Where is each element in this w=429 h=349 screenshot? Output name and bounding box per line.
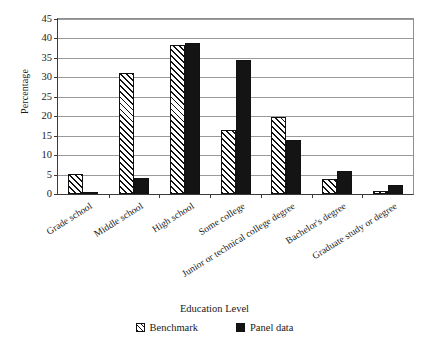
x-axis-category-label: Grade school [45,200,94,237]
x-axis-tick-mark [210,194,211,198]
y-axis-tick-mark [54,175,58,176]
x-axis-category-label: Middle school [92,200,145,239]
bar-panel-data [236,60,251,194]
y-axis-tick-label: 35 [42,53,53,64]
plot-area: 051015202530354045 [57,18,414,195]
bar-panel-data [83,192,98,194]
y-axis-tick-label: 30 [42,72,53,83]
x-axis-tick-mark [261,194,262,198]
y-axis-tick-mark [54,97,58,98]
bar-benchmark [271,117,286,194]
legend-swatch-panel-data-icon [236,323,245,332]
bar-benchmark [221,130,236,194]
x-axis-title: Education Level [0,303,429,314]
y-axis-tick-label: 0 [47,189,52,200]
y-axis-tick-mark [54,136,58,137]
y-axis-tick-mark [54,19,58,20]
y-axis-tick-label: 5 [47,169,52,180]
y-axis-tick-mark [54,155,58,156]
bar-benchmark [68,174,83,194]
legend-label-benchmark: Benchmark [150,322,198,333]
x-axis-category-label: Graduate study or degree [310,200,399,261]
y-axis-tick-mark [54,77,58,78]
y-axis-tick-label: 40 [42,33,53,44]
y-axis-tick-mark [54,58,58,59]
x-axis-category-label: Some college [196,200,246,237]
x-axis-tick-mark [159,194,160,198]
y-axis-tick-label: 15 [42,130,53,141]
y-axis-tick-label: 45 [42,14,53,25]
bar-panel-data [134,178,149,194]
bar-panel-data [388,185,403,194]
bar-benchmark [170,45,185,194]
bar-panel-data [337,171,352,194]
bar-benchmark [322,179,337,194]
bar-chart-figure: Percentage 051015202530354045 Grade scho… [0,0,429,349]
y-axis-tick-mark [54,194,58,195]
x-axis-tick-mark [312,194,313,198]
legend-item-benchmark: Benchmark [136,322,198,333]
bar-panel-data [185,43,200,194]
x-axis-category-label: Bachelor's degree [283,200,347,246]
legend-item-panel-data: Panel data [236,322,293,333]
legend-label-panel-data: Panel data [250,322,293,333]
y-axis-tick-label: 25 [42,92,53,103]
y-axis-tick-mark [54,116,58,117]
gridline [58,58,413,59]
gridline [58,38,413,39]
gridline [58,19,413,20]
x-axis-category-label: High school [150,200,196,234]
y-axis-tick-label: 10 [42,150,53,161]
bar-benchmark [119,73,134,194]
x-axis-tick-mark [362,194,363,198]
bar-benchmark [373,191,388,194]
chart-legend: Benchmark Panel data [0,322,429,333]
y-axis-title: Percentage [19,42,30,142]
y-axis-tick-label: 20 [42,111,53,122]
y-axis-tick-mark [54,38,58,39]
bar-panel-data [286,140,301,194]
x-axis-tick-mark [109,194,110,198]
legend-swatch-benchmark-icon [136,323,145,332]
x-axis-category-label: Junior or technical college degree [180,200,297,279]
